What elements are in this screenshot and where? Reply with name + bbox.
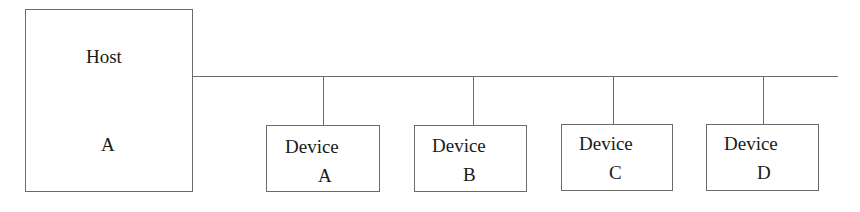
device-c-node: Device C bbox=[562, 77, 673, 191]
device-d-label: Device bbox=[724, 133, 778, 154]
bus-diagram: Host A Device A Device B Device C Device… bbox=[0, 0, 860, 212]
device-b-label: Device bbox=[432, 135, 486, 156]
device-d-id-label: D bbox=[757, 162, 771, 183]
host-box bbox=[26, 10, 193, 192]
device-c-id-label: C bbox=[609, 162, 622, 183]
device-c-label: Device bbox=[579, 133, 633, 154]
host-label: Host bbox=[86, 46, 123, 67]
device-a-label: Device bbox=[285, 136, 339, 157]
device-a-id-label: A bbox=[318, 165, 332, 186]
device-d-node: Device D bbox=[707, 77, 819, 191]
device-b-node: Device B bbox=[415, 77, 527, 192]
host-node: Host A bbox=[26, 10, 193, 192]
host-id-label: A bbox=[101, 134, 115, 155]
device-b-id-label: B bbox=[463, 164, 476, 185]
device-a-node: Device A bbox=[267, 77, 380, 192]
